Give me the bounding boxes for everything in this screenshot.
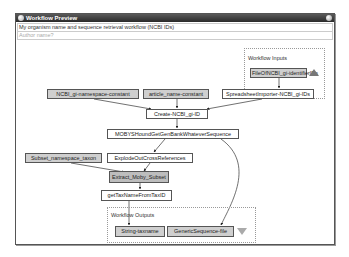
node-subset-namespace[interactable]: Subset_namespace_taxon [25,153,102,163]
node-file-input[interactable]: FileOfNCBI_gi-identifierIDs [250,68,307,78]
node-generic-sequence[interactable]: GenericSequence-file [167,226,234,237]
node-get-tax-name[interactable]: getTaxNameFromTaxID [101,190,172,201]
node-create-id[interactable]: Create-NCBI_gi-ID [146,109,208,119]
workflow-inputs-label: Workflow Inputs [248,55,287,61]
node-extract-moby-subset[interactable]: Extract_Moby_Subset [109,171,169,183]
node-article-name-constant[interactable]: article_name-constant [143,89,209,99]
node-explode[interactable]: ExplodeOutCrossReferences [107,153,193,163]
collapse-inputs-icon[interactable] [309,69,319,76]
node-spreadsheet-importer[interactable]: SpreadsheetImporter-NCBI_gi-IDs [222,89,314,99]
workflow-preview-window: Workflow Preview My organism name and se… [15,13,335,245]
node-string-taxname[interactable]: String-taxname [115,226,165,237]
collapse-outputs-icon[interactable] [237,228,247,235]
workflow-outputs-label: Workflow Outputs [111,212,154,218]
node-namespace-constant[interactable]: NCBI_gi-namespace-constant [47,89,139,99]
node-moby-shound[interactable]: MOBYSHoundGetGenBankWhateverSequence [107,129,239,139]
